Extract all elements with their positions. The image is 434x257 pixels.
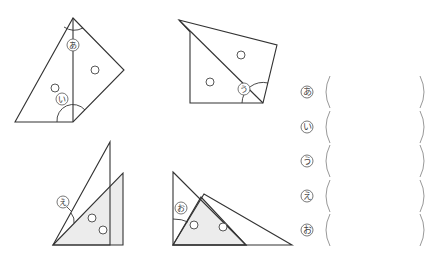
left-paren xyxy=(326,76,330,108)
right-paren xyxy=(420,111,424,143)
angle-arc-e xyxy=(71,213,74,223)
angle-label-i: い xyxy=(56,93,68,105)
svg-text:お: お xyxy=(177,204,185,213)
equal-mark xyxy=(237,51,245,59)
figure-2: う xyxy=(179,20,277,103)
left-paren xyxy=(326,214,330,246)
svg-text:お: お xyxy=(303,225,312,235)
angle-label-o: お xyxy=(175,202,187,214)
equal-mark xyxy=(219,223,227,231)
equal-mark xyxy=(91,66,99,74)
figure-3: え xyxy=(53,142,123,245)
angle-label-u: う xyxy=(238,83,250,95)
svg-text:え: え xyxy=(303,191,312,201)
figure-1-outline xyxy=(15,18,124,122)
figure-1: あ い xyxy=(15,18,124,122)
figure-4: お xyxy=(173,172,292,245)
svg-text:い: い xyxy=(58,95,66,104)
svg-text:う: う xyxy=(240,85,248,94)
answer-field-e[interactable] xyxy=(334,184,416,208)
equal-mark xyxy=(51,84,59,92)
answer-field-u[interactable] xyxy=(334,149,416,173)
right-paren xyxy=(420,180,424,212)
answer-field-o[interactable] xyxy=(334,218,416,242)
figure-2-outline xyxy=(179,20,277,103)
answer-field-a[interactable] xyxy=(334,80,416,104)
angle-label-e: え xyxy=(57,196,69,208)
svg-text:う: う xyxy=(303,156,312,166)
left-paren xyxy=(326,111,330,143)
right-paren xyxy=(420,214,424,246)
angle-arc-i xyxy=(57,105,85,122)
equal-mark xyxy=(99,226,107,234)
angle-label-a: あ xyxy=(67,39,79,51)
figure-3-shaded-triangle xyxy=(53,173,123,245)
left-paren xyxy=(326,180,330,212)
svg-text:あ: あ xyxy=(69,41,77,50)
figure-2-diagonal xyxy=(179,20,263,103)
svg-text:い: い xyxy=(303,122,312,132)
equal-mark xyxy=(88,214,96,222)
equal-mark xyxy=(190,221,198,229)
left-paren xyxy=(326,145,330,177)
right-paren xyxy=(420,145,424,177)
svg-text:あ: あ xyxy=(303,87,312,97)
angle-arc-o xyxy=(173,219,188,222)
svg-text:え: え xyxy=(59,198,67,207)
answer-field-i[interactable] xyxy=(334,115,416,139)
equal-mark xyxy=(206,78,214,86)
right-paren xyxy=(420,76,424,108)
